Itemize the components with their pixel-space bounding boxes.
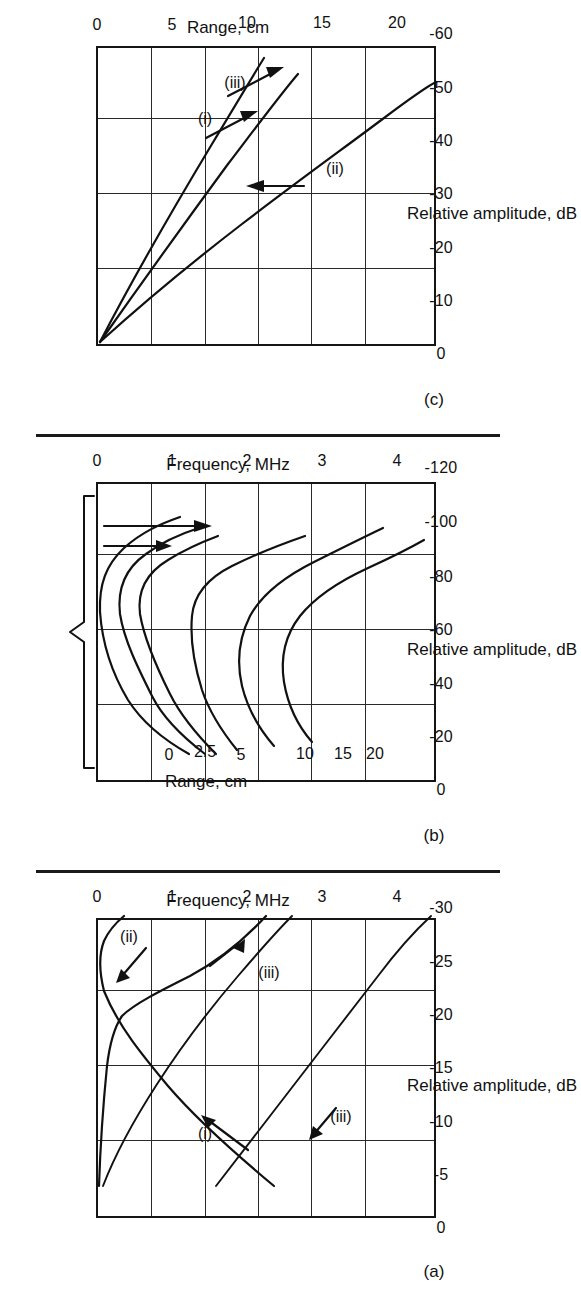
- panel-b-ytick-2: -40: [419, 675, 463, 693]
- panel-c-xtick-4: 20: [382, 14, 412, 32]
- panel-c-label-iii: (iii): [214, 74, 256, 92]
- panel-b-ytick-5: -100: [417, 513, 465, 531]
- panel-a-curves: [98, 916, 438, 1216]
- curve-ii: [100, 58, 264, 342]
- panel-a-ytick-2: -10: [421, 1113, 461, 1131]
- panel-b-plot-area: [96, 482, 436, 782]
- panel-c-ytick-2: -20: [419, 239, 463, 257]
- panel-b-letter: (b): [414, 826, 454, 846]
- panel-a-ytick-1: -5: [421, 1166, 461, 1184]
- panel-b-ytick-1: -20: [419, 728, 463, 746]
- panel-a-yaxis-title: Relative amplitude, dB: [382, 1076, 581, 1096]
- panel-a-ytick-6: -30: [421, 899, 461, 917]
- panel-b-series-label-20: 20: [359, 745, 391, 763]
- panel-b-series-label-10: 10: [289, 745, 321, 763]
- panel-c-label-ii: (ii): [316, 160, 354, 178]
- panel-divider-1: [36, 870, 500, 873]
- panel-b-curves: [98, 480, 438, 780]
- panel-a-ytick-3: -15: [421, 1059, 461, 1077]
- panel-b-xtick-4: 4: [384, 452, 410, 470]
- panel-b-series-label-15: 15: [327, 745, 359, 763]
- panel-c-xaxis-title: Range, cm: [158, 18, 298, 38]
- panel-c-yaxis-title: Relative amplitude, dB: [382, 204, 581, 224]
- panel-b-ytick-6: -120: [417, 459, 465, 477]
- panel-a-label-i: (i): [188, 1125, 222, 1143]
- panel-b-yaxis-title: Relative amplitude, dB: [382, 640, 581, 660]
- series-15cm: [239, 528, 383, 746]
- panel-b-range-bracket: [58, 482, 98, 782]
- panel-b: (b): [0, 435, 553, 870]
- panel-a: (a): [0, 871, 553, 1306]
- panel-c-xtick-3: 15: [307, 14, 337, 32]
- panel-b-series-label-2p5: 2.5: [187, 743, 223, 761]
- panel-a-label-iii-lower: (iii): [320, 1108, 362, 1126]
- panel-b-xaxis-title: Frequency, MHz: [148, 455, 308, 475]
- bracket-path: [70, 496, 94, 768]
- panel-a-letter: (a): [414, 1262, 454, 1282]
- panel-b-series-label-0: 0: [154, 746, 184, 764]
- panel-c: (c): [0, 0, 553, 434]
- panel-a-ytick-4: -20: [421, 1006, 461, 1024]
- panel-a-xtick-4: 4: [384, 888, 410, 906]
- panel-b-xtick-0: 0: [84, 452, 110, 470]
- panel-c-xtick-0: 0: [84, 16, 110, 34]
- panel-a-ytick-5: -25: [421, 953, 461, 971]
- panel-a-ytick-0: 0: [421, 1219, 461, 1237]
- curve-iii-upper: [103, 916, 292, 1186]
- panel-c-plot-area: [96, 46, 436, 346]
- panel-c-ytick-1: -10: [419, 292, 463, 310]
- arrow-iii-lower-head: [309, 1126, 323, 1140]
- panel-b-xtick-3: 3: [309, 452, 335, 470]
- panel-a-label-iii-upper: (iii): [248, 964, 290, 982]
- arrow-i-head: [240, 111, 258, 122]
- panel-b-bracket-label: Range, cm: [136, 772, 276, 792]
- arrow-ii-head: [116, 969, 130, 983]
- arrow-iii-head: [266, 67, 284, 78]
- panel-a-xtick-3: 3: [309, 888, 335, 906]
- panel-divider-2: [36, 434, 500, 437]
- panel-a-label-ii: (ii): [110, 928, 148, 946]
- panel-c-letter: (c): [414, 390, 454, 410]
- panel-c-ytick-3: -30: [419, 185, 463, 203]
- panel-c-ytick-4: -40: [419, 132, 463, 150]
- arrow-20-head: [194, 520, 212, 532]
- panel-b-ytick-4: -80: [419, 568, 463, 586]
- panel-a-xtick-0: 0: [84, 888, 110, 906]
- series-5cm: [140, 536, 218, 754]
- panel-c-ytick-0: 0: [419, 345, 463, 363]
- arrow-ii-shaft: [122, 948, 146, 976]
- panel-c-curves: [98, 44, 438, 344]
- curve-iii-lower: [216, 916, 431, 1186]
- panel-b-series-label-5: 5: [226, 746, 256, 764]
- arrow-ii-head: [246, 180, 264, 192]
- panel-a-plot-area: [96, 918, 436, 1218]
- series-10cm: [191, 536, 305, 750]
- panel-b-ytick-3: -60: [419, 621, 463, 639]
- panel-c-label-i: (i): [190, 110, 220, 128]
- panel-b-ytick-0: 0: [419, 781, 463, 799]
- panel-c-ytick-5: -50: [419, 79, 463, 97]
- panel-c-ytick-6: -60: [419, 25, 463, 43]
- arrow-iii-upper-shaft: [210, 944, 238, 966]
- panel-a-xaxis-title: Frequency, MHz: [148, 891, 308, 911]
